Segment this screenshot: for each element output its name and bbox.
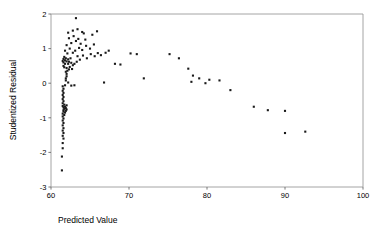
data-point xyxy=(76,28,78,30)
data-point xyxy=(66,44,68,46)
data-point xyxy=(80,43,82,45)
scatter-plot-figure: 60708090100 -3-2-1012 Predicted Value St… xyxy=(0,0,384,235)
data-point xyxy=(62,98,64,100)
data-point xyxy=(62,142,64,144)
x-axis-title: Predicted Value xyxy=(58,215,118,225)
plot-border xyxy=(51,14,363,187)
data-point xyxy=(67,81,69,83)
data-point xyxy=(70,62,72,64)
x-tick-label: 70 xyxy=(125,191,133,200)
data-point xyxy=(77,38,79,40)
data-point xyxy=(81,31,83,33)
data-point xyxy=(62,124,64,126)
data-point xyxy=(218,79,220,81)
data-point xyxy=(143,77,145,79)
plot-frame xyxy=(51,14,363,187)
data-point xyxy=(63,56,65,58)
data-point xyxy=(198,77,200,79)
y-axis-title: Studentized Residual xyxy=(8,60,18,140)
data-point xyxy=(284,110,286,112)
data-point xyxy=(119,63,121,65)
data-point xyxy=(136,53,138,55)
data-point xyxy=(70,42,72,44)
data-point xyxy=(61,169,63,171)
data-point xyxy=(65,79,67,81)
data-point xyxy=(187,68,189,70)
data-point xyxy=(204,82,206,84)
data-point xyxy=(89,48,91,50)
plot-canvas: 60708090100 -3-2-1012 Predicted Value St… xyxy=(0,0,384,235)
data-point xyxy=(64,84,66,86)
y-tick-label: 0 xyxy=(42,79,46,88)
data-point xyxy=(62,138,64,140)
data-point xyxy=(76,55,78,57)
data-point xyxy=(94,55,96,57)
data-point xyxy=(69,66,71,68)
data-point xyxy=(91,34,93,36)
data-point xyxy=(284,132,286,134)
data-point xyxy=(62,135,64,137)
data-point xyxy=(69,48,71,50)
data-point xyxy=(90,53,92,55)
x-axis-ticks: 60708090100 xyxy=(47,187,369,200)
data-point xyxy=(72,30,74,32)
data-point xyxy=(62,122,64,124)
data-point xyxy=(62,85,64,87)
data-point xyxy=(85,45,87,47)
data-point xyxy=(68,37,70,39)
data-point xyxy=(253,106,255,108)
data-point xyxy=(70,85,72,87)
data-point xyxy=(62,94,64,96)
data-points xyxy=(61,17,306,171)
data-point xyxy=(178,57,180,59)
data-point xyxy=(68,68,70,70)
data-point xyxy=(62,92,64,94)
data-point xyxy=(69,57,71,59)
data-point xyxy=(93,43,95,45)
data-point xyxy=(62,130,64,132)
y-tick-label: -1 xyxy=(40,114,47,123)
data-point xyxy=(62,120,64,122)
data-point xyxy=(82,54,84,56)
data-point xyxy=(65,77,67,79)
data-point xyxy=(130,52,132,54)
data-point xyxy=(81,49,83,51)
data-point xyxy=(71,68,73,70)
data-point xyxy=(75,40,77,42)
data-point xyxy=(79,59,81,61)
y-tick-label: 2 xyxy=(42,10,46,19)
data-point xyxy=(62,65,64,67)
data-point xyxy=(208,79,210,81)
data-point xyxy=(62,96,64,98)
data-point xyxy=(114,63,116,65)
data-point xyxy=(108,50,110,52)
y-axis-ticks: -3-2-1012 xyxy=(40,10,51,192)
x-tick-label: 60 xyxy=(47,191,55,200)
data-point xyxy=(67,58,69,60)
data-point xyxy=(62,60,64,62)
data-point xyxy=(103,81,105,83)
data-point xyxy=(62,147,64,149)
data-point xyxy=(62,88,64,90)
data-point xyxy=(84,39,86,41)
y-tick-label: -2 xyxy=(40,148,47,157)
data-point xyxy=(169,53,171,55)
x-tick-label: 80 xyxy=(203,191,211,200)
data-point xyxy=(62,90,64,92)
data-point xyxy=(75,17,77,19)
data-point xyxy=(62,127,64,129)
data-point xyxy=(304,131,306,133)
data-point xyxy=(62,117,64,119)
data-point xyxy=(62,113,64,115)
data-point xyxy=(267,109,269,111)
data-point xyxy=(105,52,107,54)
data-point xyxy=(66,52,68,54)
data-point xyxy=(66,104,68,106)
data-point xyxy=(67,32,69,34)
y-tick-label: -3 xyxy=(40,183,47,192)
data-point xyxy=(96,30,98,32)
data-point xyxy=(64,50,66,52)
data-point xyxy=(192,75,194,77)
data-point xyxy=(72,52,74,54)
data-point xyxy=(73,35,75,37)
